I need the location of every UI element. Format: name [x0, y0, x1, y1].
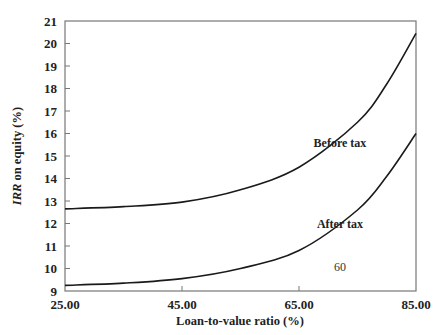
- x-tick-label: 25.00: [50, 297, 79, 312]
- y-tick-label: 20: [44, 36, 57, 51]
- y-tick-label: 15: [44, 149, 58, 164]
- y-tick-label: 17: [44, 104, 58, 119]
- x-axis: 25.0045.0065.0085.00: [50, 286, 430, 312]
- annotations: Before taxAfter tax60: [314, 136, 367, 274]
- x-tick-label: 85.00: [401, 297, 430, 312]
- y-tick-label: 13: [44, 194, 58, 209]
- y-axis-title: IRR on equity (%): [10, 107, 24, 206]
- y-tick-label: 16: [44, 126, 58, 141]
- y-axis-title-rest: on equity (%): [10, 107, 24, 184]
- y-axis: 9101112131415161718192021: [44, 14, 70, 299]
- y-tick-label: 18: [44, 81, 58, 96]
- annotation-label: 60: [334, 260, 346, 274]
- series-lines: [65, 33, 416, 285]
- series-line-before-tax: [65, 33, 416, 209]
- y-tick-label: 11: [45, 239, 57, 254]
- x-tick-label: 65.00: [284, 297, 313, 312]
- x-axis-title: Loan-to-value ratio (%): [176, 314, 304, 328]
- y-tick-label: 10: [44, 261, 57, 276]
- y-tick-label: 14: [44, 171, 58, 186]
- plot-frame: [65, 21, 416, 291]
- x-tick-label: 45.00: [167, 297, 196, 312]
- y-tick-label: 12: [44, 216, 57, 231]
- series-label: After tax: [317, 217, 363, 231]
- y-tick-label: 19: [44, 59, 58, 74]
- chart: 9101112131415161718192021 25.0045.0065.0…: [0, 0, 448, 335]
- series-line-after-tax: [65, 134, 416, 286]
- y-tick-label: 21: [44, 14, 57, 29]
- series-label: Before tax: [314, 136, 367, 150]
- y-axis-title-italic: IRR: [10, 184, 24, 207]
